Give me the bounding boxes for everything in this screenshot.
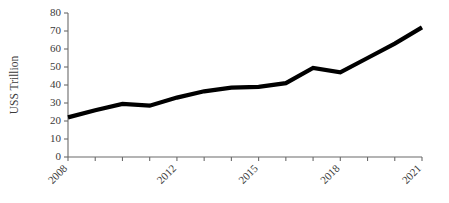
- y-axis-tick-labels: 01020304050607080: [50, 6, 62, 162]
- y-axis-ticks: [64, 13, 68, 157]
- y-tick-label: 0: [56, 150, 62, 162]
- y-tick-label: 50: [50, 60, 62, 72]
- y-tick-label: 20: [50, 114, 62, 126]
- y-tick-label: 40: [50, 78, 62, 90]
- x-tick-label: 2008: [45, 162, 69, 186]
- y-tick-label: 10: [50, 132, 62, 144]
- chart-canvas: 01020304050607080 20082012201520182021 U…: [0, 0, 449, 203]
- y-tick-label: 70: [50, 24, 62, 36]
- x-tick-label: 2012: [154, 162, 178, 186]
- x-tick-label: 2015: [236, 162, 260, 186]
- line-chart: 01020304050607080 20082012201520182021 U…: [0, 0, 449, 203]
- y-axis-title: USS Trillion: [8, 56, 20, 115]
- y-tick-label: 80: [50, 6, 62, 18]
- y-tick-label: 30: [50, 96, 62, 108]
- y-tick-label: 60: [50, 42, 62, 54]
- x-axis-tick-labels: 20082012201520182021: [45, 162, 423, 186]
- x-tick-label: 2021: [399, 162, 423, 186]
- x-tick-label: 2018: [318, 162, 342, 186]
- data-series-line: [68, 27, 422, 117]
- x-axis-group: 20082012201520182021: [45, 157, 423, 186]
- y-axis-group: 01020304050607080: [50, 6, 68, 162]
- x-axis-ticks: [68, 157, 422, 161]
